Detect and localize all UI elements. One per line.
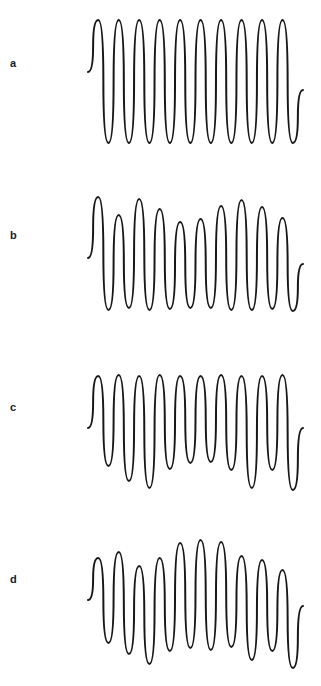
panel-b: b xyxy=(0,172,321,344)
waveform-path-d xyxy=(88,540,303,668)
panel-a: a xyxy=(0,0,321,172)
trace-holder-c xyxy=(0,344,321,516)
waveform-trace-b xyxy=(0,172,321,344)
waveform-figure: a b c d xyxy=(0,0,321,686)
waveform-trace-a xyxy=(0,0,321,172)
waveform-path-c xyxy=(88,375,303,490)
waveform-trace-c xyxy=(0,344,321,516)
waveform-path-b xyxy=(88,197,303,311)
trace-holder-b xyxy=(0,172,321,344)
panel-c: c xyxy=(0,344,321,516)
waveform-trace-d xyxy=(0,516,321,686)
trace-holder-d xyxy=(0,516,321,686)
waveform-path-a xyxy=(88,20,303,143)
panel-d: d xyxy=(0,516,321,686)
trace-holder-a xyxy=(0,0,321,172)
